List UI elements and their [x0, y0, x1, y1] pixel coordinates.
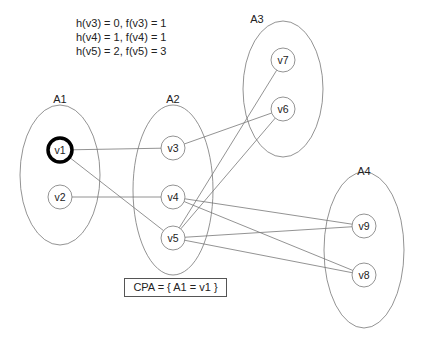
node-v3: v3 — [161, 136, 185, 160]
group-label-a3: A3 — [250, 13, 263, 25]
heuristic-line: h(v5) = 2, f(v5) = 3 — [76, 44, 166, 58]
node-v9: v9 — [352, 214, 376, 238]
svg-text:v6: v6 — [277, 103, 288, 115]
svg-text:v7: v7 — [277, 54, 288, 66]
group-label-a1: A1 — [53, 93, 66, 105]
node-v4: v4 — [161, 185, 185, 209]
edges-layer — [70, 70, 353, 273]
node-v5: v5 — [161, 226, 185, 250]
group-a4 — [324, 172, 404, 328]
edge-v1-v5 — [70, 158, 163, 231]
heuristic-values: h(v3) = 0, f(v3) = 1 h(v4) = 1, f(v4) = … — [76, 16, 166, 58]
node-v6: v6 — [271, 97, 295, 121]
edge-v1-v3 — [73, 148, 161, 150]
edge-v5-v7 — [179, 70, 276, 228]
heuristic-line: h(v4) = 1, f(v4) = 1 — [76, 30, 166, 44]
group-a1 — [20, 105, 100, 245]
edge-v5-v8 — [185, 240, 352, 272]
svg-text:v8: v8 — [358, 269, 369, 281]
svg-text:v9: v9 — [358, 220, 369, 232]
cpa-box: CPA = { A1 = v1 } — [124, 278, 227, 297]
heuristic-line: h(v3) = 0, f(v3) = 1 — [76, 16, 166, 30]
svg-text:v1: v1 — [54, 144, 65, 156]
group-a3 — [243, 21, 323, 157]
node-v2: v2 — [48, 185, 72, 209]
svg-text:v3: v3 — [167, 142, 178, 154]
group-label-a4: A4 — [357, 165, 370, 177]
group-label-a2: A2 — [166, 93, 179, 105]
svg-text:v2: v2 — [54, 191, 65, 203]
edge-v5-v6 — [181, 118, 275, 229]
svg-text:v4: v4 — [167, 191, 178, 203]
edge-v3-v6 — [184, 113, 271, 144]
node-v7: v7 — [271, 48, 295, 72]
node-v8: v8 — [352, 263, 376, 287]
node-v1: v1 — [48, 138, 72, 162]
svg-text:v5: v5 — [167, 232, 178, 244]
